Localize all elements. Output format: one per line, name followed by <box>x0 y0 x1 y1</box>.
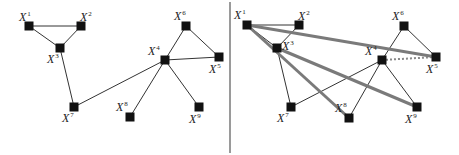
node-label-x7: X7 <box>61 111 74 125</box>
node-label-x9: X9 <box>404 112 417 126</box>
node-x6 <box>182 22 191 31</box>
edge-x4-x6-thin <box>382 26 404 60</box>
node-label-x4: X4 <box>147 44 160 58</box>
node-label-x8: X8 <box>115 100 128 114</box>
node-x3 <box>273 44 282 53</box>
node-label-x2: X2 <box>79 10 92 24</box>
node-label-x5: X5 <box>208 62 221 76</box>
node-x5 <box>432 53 441 62</box>
node-x8 <box>345 114 354 123</box>
edge-x6-x5-thin <box>186 26 219 57</box>
edge-x4-x9-thin <box>165 60 199 107</box>
edge-x4-x5-dotted <box>382 57 436 60</box>
node-label-x3: X3 <box>281 39 294 53</box>
node-x9 <box>195 103 204 112</box>
edge-x1-x3-thin <box>29 26 60 48</box>
node-label-x3: X3 <box>46 52 59 66</box>
node-x8 <box>126 113 135 122</box>
node-x9 <box>413 103 422 112</box>
node-label-x7: X7 <box>276 111 289 125</box>
node-label-x6: X6 <box>173 9 186 23</box>
node-label-x6: X6 <box>391 9 404 23</box>
edge-x4-x5-thin <box>165 57 219 60</box>
graph-diagram: X1X2X3X4X5X6X7X8X9 X1X2X3X4X5X6X7X8X9 <box>0 0 459 155</box>
node-x4 <box>378 56 387 65</box>
edge-x4-x6-thin <box>165 26 186 60</box>
edge-x3-x7-thin <box>60 48 74 107</box>
right-graph-panel: X1X2X3X4X5X6X7X8X9 <box>233 8 441 126</box>
node-x1 <box>243 21 252 30</box>
node-label-x9: X9 <box>188 112 201 126</box>
edge-x3-x9-thick <box>277 48 417 107</box>
node-x5 <box>215 53 224 62</box>
node-label-x2: X2 <box>297 9 310 23</box>
node-label-x1: X1 <box>233 8 246 22</box>
node-label-x4: X4 <box>364 44 377 58</box>
node-x4 <box>161 56 170 65</box>
node-x6 <box>400 22 409 31</box>
left-graph-panel: X1X2X3X4X5X6X7X8X9 <box>18 9 224 126</box>
node-label-x5: X5 <box>425 62 438 76</box>
